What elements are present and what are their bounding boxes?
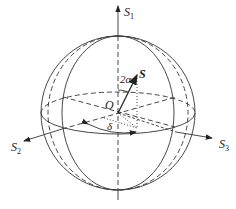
s1-label: S1: [124, 6, 134, 21]
origin-label: O: [105, 99, 114, 111]
sphere-drawing: [0, 0, 236, 209]
s2-label: S2: [11, 141, 21, 156]
angle-alpha-label: 2α: [120, 74, 131, 85]
angle-delta-label: δ: [107, 121, 112, 132]
s3-axis: [176, 132, 212, 138]
vector-s-label: S: [139, 68, 146, 80]
poincare-sphere-diagram: S1 S2 S3 O S 2α δ: [0, 0, 236, 209]
s3-label: S3: [219, 138, 229, 153]
